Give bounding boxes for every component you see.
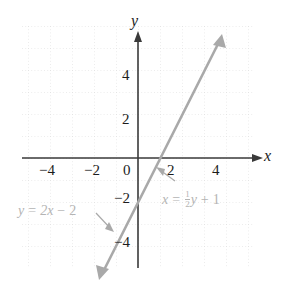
eq-right-var: y	[191, 192, 197, 207]
x-tick-zero: 0	[123, 163, 131, 178]
y-tick-neg4: −4	[114, 235, 130, 250]
y-tick-pos2: 2	[122, 112, 130, 127]
y-axis-label: y	[131, 13, 138, 29]
eq-left-equals: =	[28, 203, 36, 218]
fraction-denominator: 2	[185, 199, 190, 209]
equation-label-right: x=12y+1	[162, 190, 220, 210]
equation-label-left: y=2x−2	[18, 204, 76, 218]
x-tick-neg2: −2	[84, 163, 100, 178]
x-tick-neg4: −4	[39, 163, 55, 178]
eq-left-term1: 2x	[40, 203, 53, 218]
eq-right-lhs: x	[162, 192, 168, 207]
eq-right-equals: =	[172, 192, 180, 207]
x-tick-pos2: 2	[167, 163, 175, 178]
x-axis-label: x	[264, 148, 271, 164]
eq-right-plus: +	[201, 192, 209, 207]
coordinate-plane	[0, 0, 282, 290]
y-tick-neg2: −2	[114, 191, 130, 206]
eq-left-term2: 2	[69, 203, 76, 218]
y-tick-pos4: 4	[122, 68, 130, 83]
x-tick-pos4: 4	[212, 163, 220, 178]
fraction-numerator: 1	[185, 190, 190, 199]
eq-right-fraction: 12	[185, 190, 190, 210]
eq-left-minus: −	[57, 203, 65, 218]
eq-right-const: 1	[213, 192, 220, 207]
eq-left-lhs: y	[18, 203, 24, 218]
graph-figure: x y −4 −2 0 2 4 4 2 −2 −4 y=2x−2 x=12y+1	[0, 0, 282, 290]
